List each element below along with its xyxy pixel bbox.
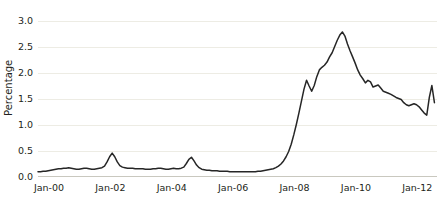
y-tick-label: 0.5 (18, 145, 33, 156)
gridlines-group (38, 22, 437, 152)
x-tick-label: Jan-04 (156, 182, 187, 193)
y-tick-label: 2.0 (18, 67, 33, 78)
data-series-line (38, 32, 434, 172)
x-tick-label: Jan-00 (33, 182, 64, 193)
y-tick-label: 2.5 (18, 41, 33, 52)
y-tick-label: 1.5 (18, 93, 33, 104)
x-tick-label: Jan-12 (401, 182, 432, 193)
y-axis-title: Percentage (3, 60, 14, 116)
chart-container: 0.00.51.01.52.02.53.0 Jan-00Jan-02Jan-04… (0, 0, 437, 207)
y-tick-label: 1.0 (18, 119, 33, 130)
x-tick-labels-group: Jan-00Jan-02Jan-04Jan-06Jan-08Jan-10Jan-… (33, 182, 432, 193)
y-tick-labels-group: 0.00.51.01.52.02.53.0 (18, 15, 33, 182)
y-tick-label: 3.0 (18, 15, 33, 26)
x-tick-label: Jan-10 (340, 182, 371, 193)
x-tick-label: Jan-02 (94, 182, 125, 193)
y-tick-label: 0.0 (18, 171, 33, 182)
x-tick-label: Jan-06 (217, 182, 248, 193)
line-chart: 0.00.51.01.52.02.53.0 Jan-00Jan-02Jan-04… (0, 0, 437, 207)
x-tick-label: Jan-08 (278, 182, 309, 193)
